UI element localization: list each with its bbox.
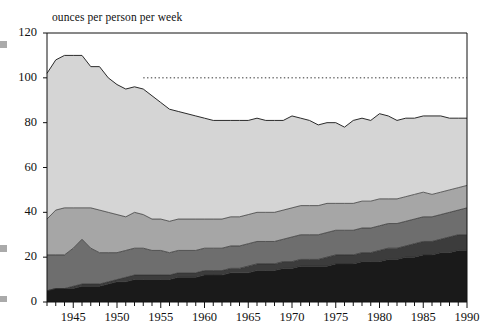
y-tick-label: 20 [3,250,37,263]
x-tick-label: 1985 [399,311,447,324]
area-band-5 [47,55,467,221]
x-tick-label: 1980 [356,311,404,324]
y-tick-label: 100 [3,71,37,84]
x-tick-label: 1990 [443,311,491,324]
y-tick-label: 40 [3,205,37,218]
scan-artifact-bottom [0,296,7,302]
scan-artifact-top [0,41,7,48]
scan-artifact-middle [0,245,7,252]
y-tick-label: 120 [3,26,37,39]
y-tick-label: 60 [3,161,37,174]
chart-root: ounces per person per week 0204060801001… [0,0,502,335]
y-tick-label: 0 [3,295,37,308]
chart-svg [0,0,502,335]
x-tick-label: 1965 [224,311,272,324]
y-tick-label: 80 [3,116,37,129]
x-tick-label: 1955 [137,311,185,324]
x-tick-label: 1970 [268,311,316,324]
x-tick-label: 1975 [312,311,360,324]
x-tick-label: 1960 [181,311,229,324]
area-bands [47,55,467,302]
x-tick-label: 1950 [93,311,141,324]
stacked-area-chart: ounces per person per week 0204060801001… [0,0,502,335]
x-tick-label: 1945 [49,311,97,324]
